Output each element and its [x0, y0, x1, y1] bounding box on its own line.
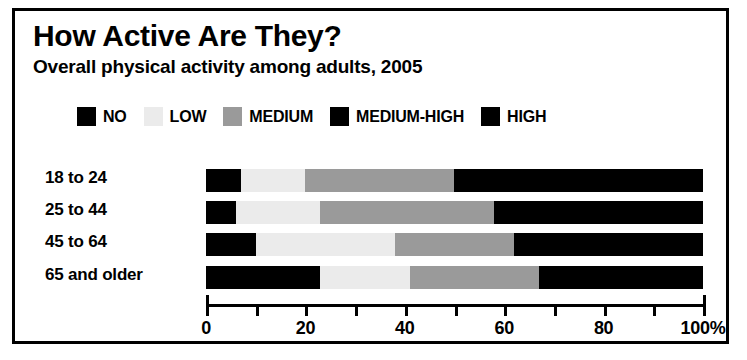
axis-tick-label: 100%: [681, 318, 726, 339]
axis-tick-label: 80: [594, 318, 613, 339]
bar-segment-low: [236, 201, 320, 224]
bar-segment-medium-high: [454, 169, 578, 192]
bar-row: [206, 201, 703, 224]
bar-segment-no: [206, 169, 241, 192]
bar-segment-low: [241, 169, 306, 192]
bar-segment-medium-high: [514, 233, 608, 256]
bar-segment-high: [609, 233, 703, 256]
axis-tick-label: 20: [296, 318, 315, 339]
bar-segment-medium: [410, 266, 539, 289]
axis-tick: [355, 304, 358, 316]
chart-figure: How Active Are They? Overall physical ac…: [12, 8, 729, 344]
bar-segment-no: [206, 201, 236, 224]
axis-tick: [206, 304, 209, 316]
bar-row: [206, 169, 703, 192]
category-label: 65 and older: [45, 265, 143, 285]
bar-row: [206, 233, 703, 256]
plot-area: 18 to 2425 to 4445 to 6465 and older 020…: [15, 11, 729, 344]
bar-segment-medium-high: [539, 266, 623, 289]
category-label: 18 to 24: [45, 168, 107, 188]
axis-end-cap: [206, 295, 209, 305]
axis-tick: [305, 304, 308, 316]
bar-segment-medium: [320, 201, 494, 224]
bar-segment-high: [579, 169, 703, 192]
bar-segment-high: [623, 266, 703, 289]
axis-tick-label: 60: [494, 318, 513, 339]
bar-segment-no: [206, 233, 256, 256]
axis-tick: [653, 304, 656, 316]
bar-segment-medium: [395, 233, 514, 256]
axis-tick: [504, 304, 507, 316]
bar-segment-low: [320, 266, 409, 289]
axis-tick: [405, 304, 408, 316]
bar-segment-medium-high: [494, 201, 598, 224]
bar-segment-high: [599, 201, 703, 224]
x-axis-labels: 020406080100%: [206, 318, 703, 344]
bar-row: [206, 266, 703, 289]
bar-segment-medium: [305, 169, 454, 192]
bar-segment-no: [206, 266, 320, 289]
axis-tick: [455, 304, 458, 316]
category-label: 45 to 64: [45, 232, 107, 252]
x-axis-ticks: [206, 304, 703, 316]
axis-tick-label: 40: [395, 318, 414, 339]
axis-tick: [554, 304, 557, 316]
bar-segment-low: [256, 233, 395, 256]
axis-tick: [703, 304, 706, 316]
category-label: 25 to 44: [45, 200, 107, 220]
axis-tick-label: 0: [201, 318, 211, 339]
axis-tick: [256, 304, 259, 316]
axis-end-cap: [703, 295, 706, 305]
axis-tick: [604, 304, 607, 316]
